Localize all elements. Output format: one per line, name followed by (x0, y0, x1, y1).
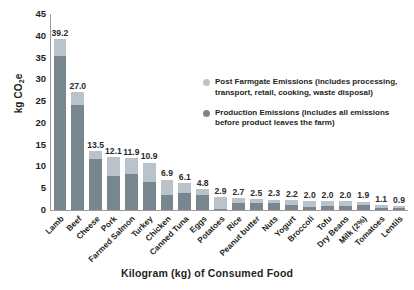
bar-segment-production (357, 205, 370, 210)
bar-slot: 27.0 (69, 14, 87, 210)
stacked-bar[interactable]: 27.0 (71, 92, 84, 210)
x-label-slot: Canned Tuna (176, 213, 194, 269)
y-axis-tick-label: 45 (22, 9, 46, 19)
bar-value-label: 2.0 (304, 191, 316, 200)
bar-value-label: 2.3 (268, 189, 280, 198)
chart-legend: Post Farmgate Emissions (includes proces… (203, 77, 408, 138)
bar-segment-production (303, 207, 316, 210)
x-axis-line (50, 210, 408, 211)
bar-segment-production (54, 56, 67, 210)
stacked-bar[interactable]: 13.5 (89, 151, 102, 210)
stacked-bar[interactable]: 4.8 (196, 189, 209, 210)
bar-segment-production (161, 195, 174, 210)
bar-segment-post-farmgate (89, 151, 102, 159)
bar-value-label: 2.0 (322, 191, 334, 200)
bar-value-label: 13.5 (87, 141, 104, 150)
bar-value-label: 4.8 (197, 179, 209, 188)
stacked-bar[interactable]: 2.0 (339, 201, 352, 210)
bar-segment-production (196, 195, 209, 210)
x-label-slot: Farmed Salmon (122, 213, 140, 269)
bar-slot: 11.9 (122, 14, 140, 210)
bar-segment-production (71, 105, 84, 210)
y-axis-tick-label: 30 (22, 75, 46, 85)
x-axis-tick-label: Lamb (44, 215, 65, 236)
bar-value-label: 2.0 (339, 191, 351, 200)
bar-segment-production (250, 203, 263, 210)
emissions-bar-chart: kg CO2e 051015202530354045 39.227.013.51… (0, 0, 414, 290)
x-label-slot: Nuts (265, 213, 283, 269)
y-axis-tick-label: 15 (22, 140, 46, 150)
bar-value-label: 2.2 (286, 190, 298, 199)
stacked-bar[interactable]: 11.9 (125, 158, 138, 210)
stacked-bar[interactable]: 2.0 (303, 201, 316, 210)
bar-value-label: 11.9 (123, 148, 139, 157)
x-axis-title: Kilogram (kg) of Consumed Food (0, 267, 414, 279)
y-axis-tick-label: 40 (22, 31, 46, 41)
stacked-bar[interactable]: 39.2 (54, 39, 67, 210)
stacked-bar[interactable]: 2.5 (250, 199, 263, 210)
bar-segment-post-farmgate (54, 39, 67, 56)
x-label-slot: Lamb (51, 213, 69, 269)
legend-swatch-circle-icon (203, 110, 210, 117)
bar-value-label: 6.9 (161, 169, 173, 178)
y-axis-ticks: 051015202530354045 (22, 14, 46, 211)
bar-value-label: 1.1 (375, 195, 387, 204)
stacked-bar[interactable]: 1.9 (357, 202, 370, 210)
bar-segment-production (285, 205, 298, 210)
y-axis-tick-label: 35 (22, 53, 46, 63)
stacked-bar[interactable]: 0.9 (393, 206, 406, 210)
stacked-bar[interactable]: 6.9 (161, 180, 174, 210)
bar-slot: 6.9 (158, 14, 176, 210)
bar-value-label: 10.9 (141, 152, 158, 161)
bar-segment-post-farmgate (107, 157, 120, 175)
bar-segment-production (268, 203, 281, 210)
y-axis-tick-label: 20 (22, 118, 46, 128)
bar-segment-production (125, 174, 138, 210)
stacked-bar[interactable]: 1.1 (375, 205, 388, 210)
bar-slot: 10.9 (140, 14, 158, 210)
x-label-slot: Beef (69, 213, 87, 269)
bar-segment-production (214, 209, 227, 210)
stacked-bar[interactable]: 2.0 (321, 201, 334, 210)
bar-segment-production (107, 176, 120, 210)
legend-item[interactable]: Production Emissions (includes all emiss… (203, 108, 408, 130)
x-axis-tick-labels: LambBeefCheesePorkFarmed SalmonTurkeyChi… (51, 213, 408, 269)
y-axis-tick-label: 25 (22, 96, 46, 106)
stacked-bar[interactable]: 2.9 (214, 197, 227, 210)
stacked-bar[interactable]: 2.7 (232, 198, 245, 210)
x-label-slot: Peanut butter (247, 213, 265, 269)
bar-segment-production (339, 206, 352, 210)
bar-segment-production (232, 203, 245, 210)
bar-segment-post-farmgate (125, 158, 138, 174)
bar-value-label: 27.0 (69, 82, 86, 91)
legend-item[interactable]: Post Farmgate Emissions (includes proces… (203, 77, 408, 99)
bar-segment-production (321, 206, 334, 210)
bar-value-label: 0.9 (393, 196, 405, 205)
x-label-slot: Tomatoes (372, 213, 390, 269)
x-label-slot: Lentils (390, 213, 408, 269)
stacked-bar[interactable]: 2.3 (268, 200, 281, 210)
bar-segment-production (178, 193, 191, 210)
bar-slot: 13.5 (87, 14, 105, 210)
bar-slot: 6.1 (176, 14, 194, 210)
legend-item-label: Post Farmgate Emissions (includes proces… (215, 77, 408, 99)
stacked-bar[interactable]: 10.9 (143, 163, 156, 210)
stacked-bar[interactable]: 2.2 (285, 200, 298, 210)
bar-segment-post-farmgate (178, 183, 191, 193)
bar-segment-post-farmgate (71, 92, 84, 104)
bar-value-label: 1.9 (357, 191, 369, 200)
bar-segment-production (393, 208, 406, 210)
bar-value-label: 39.2 (52, 29, 69, 38)
bar-segment-post-farmgate (143, 163, 156, 183)
stacked-bar[interactable]: 12.1 (107, 157, 120, 210)
legend-item-label: Production Emissions (includes all emiss… (215, 108, 408, 130)
legend-swatch-circle-icon (203, 79, 210, 86)
bar-slot: 39.2 (51, 14, 69, 210)
y-axis-tick-label: 0 (22, 205, 46, 215)
bar-slot: 12.1 (105, 14, 123, 210)
stacked-bar[interactable]: 6.1 (178, 183, 191, 210)
bar-value-label: 2.7 (232, 188, 244, 197)
bar-segment-post-farmgate (214, 197, 227, 208)
bar-value-label: 6.1 (179, 173, 191, 182)
bar-segment-production (375, 208, 388, 210)
